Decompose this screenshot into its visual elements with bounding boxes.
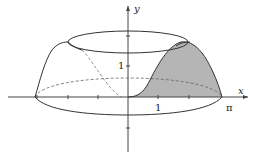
x-tick-1-label: 1 [155,103,161,113]
x-tick-pi-label: π [226,103,233,113]
left-outer-silhouette [35,42,68,97]
diagram-svg [0,0,253,161]
y-tick-1-label: 1 [118,61,124,71]
x-axis-label: x [238,86,244,96]
left-hidden-profile [82,50,122,97]
shaded-region [128,42,222,97]
y-arrow-icon [126,6,130,11]
y-axis-label: y [134,4,140,14]
diagram: y x 1 π 1 [0,0,253,161]
